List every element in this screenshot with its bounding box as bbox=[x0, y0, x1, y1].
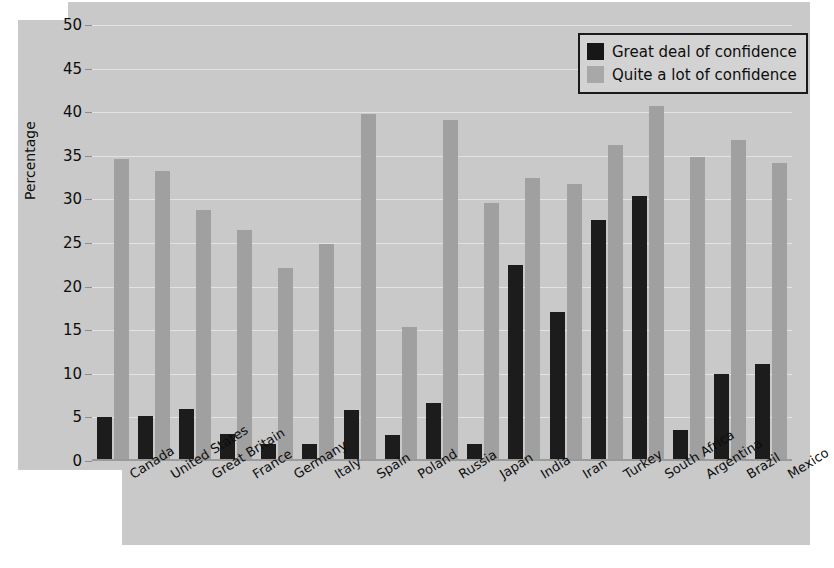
y-tick-label: 35 bbox=[38, 149, 82, 164]
y-tick-label: 25 bbox=[38, 236, 82, 251]
bar-group bbox=[216, 25, 257, 461]
bar bbox=[319, 244, 334, 461]
bar-group bbox=[380, 25, 421, 461]
bar-group bbox=[92, 25, 133, 461]
y-tick-label: 10 bbox=[38, 367, 82, 382]
bar bbox=[591, 220, 606, 461]
legend-label: Great deal of confidence bbox=[612, 43, 797, 61]
y-tick-mark bbox=[85, 243, 92, 244]
legend-row: Quite a lot of confidence bbox=[587, 63, 797, 86]
bar bbox=[731, 140, 746, 461]
bar bbox=[344, 410, 359, 461]
bar-group bbox=[504, 25, 545, 461]
bar bbox=[649, 106, 664, 461]
page-margin-top-left bbox=[0, 0, 68, 20]
y-tick-mark bbox=[85, 287, 92, 288]
y-tick-label: 30 bbox=[38, 192, 82, 207]
scan-panel-top-step bbox=[68, 2, 810, 24]
y-tick-label: 40 bbox=[38, 105, 82, 120]
bar bbox=[196, 210, 211, 461]
page-margin-right bbox=[810, 0, 834, 568]
bar bbox=[361, 114, 376, 461]
y-tick-label: 45 bbox=[38, 62, 82, 77]
chart-legend: Great deal of confidenceQuite a lot of c… bbox=[578, 33, 808, 94]
bar-group bbox=[463, 25, 504, 461]
page-margin-bottom bbox=[0, 545, 834, 568]
legend-swatch-icon bbox=[587, 66, 604, 83]
bar bbox=[772, 163, 787, 461]
bar bbox=[155, 171, 170, 461]
y-tick-mark bbox=[85, 417, 92, 418]
legend-row: Great deal of confidence bbox=[587, 40, 797, 63]
bar bbox=[97, 417, 112, 461]
bar-group bbox=[421, 25, 462, 461]
bar bbox=[484, 203, 499, 461]
bar-group bbox=[298, 25, 339, 461]
bar-group bbox=[133, 25, 174, 461]
y-tick-label: 50 bbox=[38, 18, 82, 33]
bar bbox=[690, 157, 705, 461]
bar bbox=[632, 196, 647, 461]
bar bbox=[567, 184, 582, 461]
legend-swatch-icon bbox=[587, 43, 604, 60]
y-tick-mark bbox=[85, 330, 92, 331]
bar bbox=[114, 159, 129, 461]
y-tick-label: 15 bbox=[38, 323, 82, 338]
y-tick-mark bbox=[85, 69, 92, 70]
y-tick-mark bbox=[85, 199, 92, 200]
bar bbox=[525, 178, 540, 461]
y-tick-label: 5 bbox=[38, 410, 82, 425]
y-tick-label: 0 bbox=[38, 454, 82, 469]
bar-group bbox=[257, 25, 298, 461]
bar-group bbox=[339, 25, 380, 461]
y-tick-mark bbox=[85, 25, 92, 26]
bar bbox=[608, 145, 623, 461]
y-tick-mark bbox=[85, 374, 92, 375]
legend-label: Quite a lot of confidence bbox=[612, 66, 797, 84]
bar bbox=[508, 265, 523, 461]
y-axis-title: Percentage bbox=[22, 121, 38, 200]
bar bbox=[550, 312, 565, 461]
y-tick-mark bbox=[85, 461, 92, 462]
y-tick-mark bbox=[85, 112, 92, 113]
bar-group bbox=[174, 25, 215, 461]
bar bbox=[402, 327, 417, 461]
y-tick-mark bbox=[85, 156, 92, 157]
bar bbox=[426, 403, 441, 461]
chart-root: Percentage 05101520253035404550 CanadaUn… bbox=[0, 0, 834, 568]
y-tick-label: 20 bbox=[38, 280, 82, 295]
bar bbox=[443, 120, 458, 461]
